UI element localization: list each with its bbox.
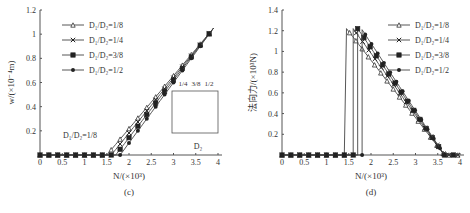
diamond-marker [442,153,446,157]
y-tick-label: 1.4 [268,6,278,15]
annotation-label: D₁/D₂=1/8 [63,131,97,140]
diamond-marker [438,146,442,150]
legend-label: D₁/D₂=1/2 [89,66,123,75]
inset-dimension-label: D₂ [194,142,203,151]
diamond-marker [65,153,69,157]
diamond-marker [360,153,364,157]
y-tick-label: 0.4 [268,110,278,119]
diamond-marker [127,141,131,145]
y-tick-label: 1 [274,47,278,56]
y-tick-label: 1.2 [268,27,278,36]
x-tick-label: 3.5 [191,158,201,167]
square-marker [397,53,401,57]
x-tick-label: 4 [458,158,462,167]
cross-marker [127,131,131,135]
diamond-marker [38,153,42,157]
diamond-marker [91,153,95,157]
x-tick-label: 2.5 [146,158,156,167]
chart-c: 00.511.522.533.540.20.40.60.811.2N/(×10³… [6,6,222,197]
x-tick-label: 3.5 [433,158,443,167]
diamond-marker [145,117,149,121]
y-tick-label: 0.2 [26,127,36,136]
inset-label: 1/2 [205,80,214,88]
diamond-marker [307,153,311,157]
diamond-marker [325,153,329,157]
square-marker [71,53,75,57]
diamond-marker [289,153,293,157]
y-tick-label: 0.6 [26,79,36,88]
diamond-marker [47,153,51,157]
inset-box [172,91,218,133]
diamond-marker [351,153,355,157]
cross-marker [118,142,122,146]
diamond-marker [388,70,392,74]
diamond-marker [83,153,87,157]
diamond-marker [280,153,284,157]
x-tick-label: 0.5 [299,158,309,167]
chart-d: 00.511.522.533.540.20.40.60.811.21.4N/(×… [247,6,464,197]
x-tick-label: 3 [172,158,176,167]
diamond-marker [451,153,455,157]
diamond-marker [180,68,184,72]
legend-label: D₁/D₂=3/8 [415,51,449,60]
x-tick-label: 1.5 [344,158,354,167]
diamond-marker [419,118,423,122]
diamond-marker [154,105,158,109]
x-axis-label: N/(×10³) [113,171,145,181]
legend-label: D₁/D₂=3/8 [89,51,123,60]
legend-label: D₁/D₂=1/2 [415,66,449,75]
diamond-marker [382,61,386,65]
diamond-marker [401,89,405,93]
diamond-marker [342,153,346,157]
square-marker [355,26,359,30]
diamond-marker [136,129,140,133]
y-tick-label: 0.2 [268,130,278,139]
x-tick-label: 0 [280,158,284,167]
square-marker [118,147,122,151]
square-marker [136,124,140,128]
x-tick-label: 4 [216,158,220,167]
y-axis-label: 法向力/(×10³N) [247,53,258,112]
x-tick-label: 1 [83,158,87,167]
diamond-marker [397,68,401,72]
x-axis-label: N/(×10³) [355,171,387,181]
x-tick-label: 0 [38,158,42,167]
y-tick-label: 0.6 [268,89,278,98]
legend-label: D₁/D₂=1/4 [415,36,449,45]
inset-label: 3/8 [192,80,201,88]
chart-caption: (c) [124,187,134,197]
x-tick-label: 2 [369,158,373,167]
diamond-marker [100,153,104,157]
legend-label: D₁/D₂=1/8 [415,21,449,30]
diamond-marker [432,137,436,141]
diamond-marker [413,108,417,112]
diamond-marker [163,93,167,97]
x-tick-label: 1 [325,158,329,167]
x-tick-label: 0.5 [57,158,67,167]
x-tick-label: 3 [414,158,418,167]
diamond-marker [333,153,337,157]
diamond-marker [189,56,193,60]
y-tick-label: 0.8 [268,68,278,77]
diamond-marker [407,99,411,103]
diamond-marker [172,81,176,85]
inset-label: 1/4 [179,80,188,88]
diamond-marker [71,68,75,72]
diamond-marker [363,32,367,36]
square-marker [127,135,131,139]
diamond-marker [316,153,320,157]
diamond-marker [207,32,211,36]
y-axis-label: w/(×10⁻⁴m) [6,60,16,104]
diamond-marker [198,44,202,48]
diamond-marker [56,153,60,157]
y-tick-label: 0.8 [26,54,36,63]
x-tick-label: 2 [127,158,131,167]
x-tick-label: 2.5 [388,158,398,167]
diamond-marker [109,153,113,157]
x-tick-label: 1.5 [102,158,112,167]
legend-label: D₁/D₂=1/4 [89,36,123,45]
diamond-marker [394,80,398,84]
y-tick-label: 1.2 [26,6,36,15]
diamond-marker [426,127,430,131]
chart-caption: (d) [366,187,377,197]
